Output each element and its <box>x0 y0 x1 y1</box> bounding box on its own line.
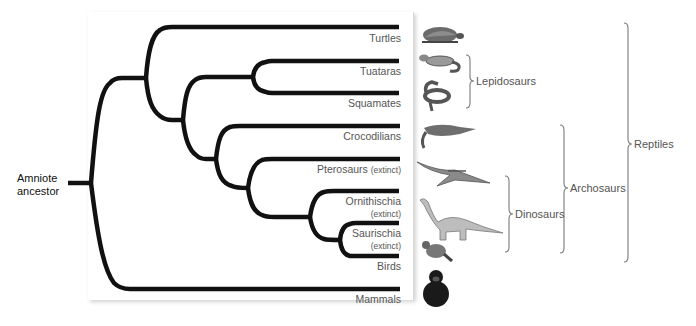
pigeon-icon <box>422 241 452 261</box>
tuatara-icon <box>419 55 459 72</box>
lepidosaurs-brace <box>466 55 474 108</box>
group-dinosaurs: Dinosaurs <box>515 208 565 220</box>
archosaurs-brace <box>560 125 568 253</box>
tip-tuataras: Tuataras <box>360 65 401 77</box>
group-archosaurs: Archosaurs <box>570 182 626 194</box>
tip-birds: Birds <box>377 260 401 272</box>
group-lepidosaurs: Lepidosaurs <box>476 75 536 87</box>
sauropod-dinosaur-icon <box>420 199 503 240</box>
tip-ornithischia: Ornithischia(extinct) <box>346 195 401 220</box>
tip-squamates: Squamates <box>348 97 401 109</box>
group-reptiles: Reptiles <box>634 138 674 150</box>
dinosaurs-brace <box>505 176 513 252</box>
tip-mammals: Mammals <box>355 293 401 305</box>
pterosaur-icon <box>417 162 490 186</box>
reptiles-brace <box>624 23 632 262</box>
chimpanzee-icon <box>423 270 449 307</box>
tip-labels: Turtles Tuataras Squamates Crocodilians … <box>0 0 401 326</box>
turtle-icon <box>422 27 464 43</box>
tip-turtles: Turtles <box>369 32 401 44</box>
tip-crocodilians: Crocodilians <box>343 130 401 142</box>
tip-saurischia: Saurischia(extinct) <box>352 227 401 252</box>
tip-pterosaurs: Pterosaurs (extinct) <box>317 163 401 176</box>
snake-icon <box>425 82 449 111</box>
crocodile-icon <box>422 125 476 148</box>
